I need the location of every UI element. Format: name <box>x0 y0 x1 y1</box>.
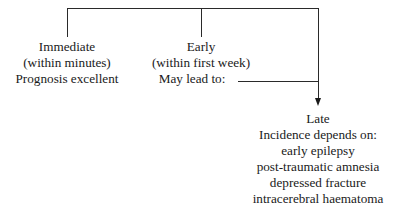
top-horizontal-connector <box>67 8 319 9</box>
node-line: Prognosis excellent <box>7 71 127 87</box>
node-line: (within first week) <box>141 55 261 71</box>
arrow-down-icon <box>315 98 321 106</box>
node-title: Immediate <box>7 39 127 55</box>
immediate-vertical-connector <box>67 8 68 37</box>
node-line: Incidence depends on: <box>248 127 388 143</box>
early-vertical-connector <box>201 8 202 37</box>
node-immediate: Immediate (within minutes) Prognosis exc… <box>7 39 127 87</box>
late-vertical-connector <box>318 8 319 102</box>
node-line: early epilepsy <box>248 143 388 159</box>
node-line: intracerebral haematoma <box>248 191 388 207</box>
node-line: depressed fracture <box>248 175 388 191</box>
node-late: Late Incidence depends on: early epileps… <box>248 111 388 207</box>
node-early: Early (within first week) May lead to: <box>141 39 261 87</box>
node-title: Early <box>141 39 261 55</box>
node-line: May lead to: <box>141 71 261 87</box>
node-line: post-traumatic amnesia <box>248 159 388 175</box>
node-line: (within minutes) <box>7 55 127 71</box>
node-title: Late <box>248 111 388 127</box>
